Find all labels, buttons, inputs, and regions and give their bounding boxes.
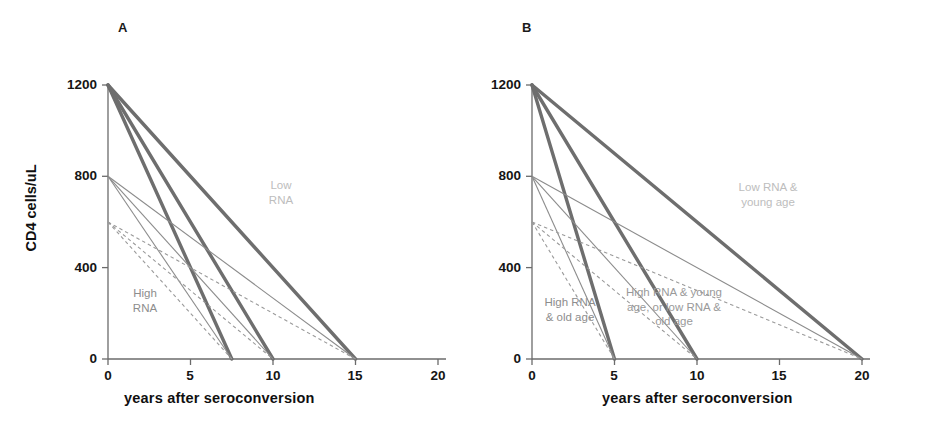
panel-a-ytick-1200: 1200	[52, 77, 97, 92]
panel-a-xtick-15: 15	[340, 368, 370, 383]
panel-a-xtick-20: 20	[423, 368, 453, 383]
panel-b-ytick-1200: 1200	[476, 77, 521, 92]
panel-b: B	[474, 0, 948, 432]
panel-a-annotation-high-rna: High RNA	[112, 286, 178, 315]
panel-b-ytick-800: 800	[476, 168, 521, 183]
panel-a: A	[0, 0, 474, 432]
panel-a-xtick-5: 5	[175, 368, 205, 383]
panel-b-xtick-5: 5	[599, 368, 629, 383]
panel-b-xtick-20: 20	[847, 368, 877, 383]
panel-a-annotation-low-rna: Low RNA	[248, 178, 314, 207]
panel-b-xtick-15: 15	[764, 368, 794, 383]
panel-b-annotation-high-rna-young-or-low-rna-old: High RNA & young age, or low RNA & old a…	[610, 285, 738, 329]
panel-b-xtick-10: 10	[682, 368, 712, 383]
panel-a-y-axis-title: CD4 cells/uL	[23, 133, 39, 283]
panel-a-xtick-0: 0	[93, 368, 123, 383]
panel-a-plot	[0, 0, 474, 432]
panel-a-thin-lines	[108, 176, 356, 359]
panel-a-ytick-800: 800	[52, 168, 97, 183]
panel-a-axis-lines	[108, 85, 446, 359]
panel-a-thick-lines	[108, 85, 356, 359]
panel-a-ytick-400: 400	[52, 260, 97, 275]
panel-a-xtick-10: 10	[258, 368, 288, 383]
panel-b-annotation-high-rna-old-age: High RNA & old age	[524, 295, 616, 324]
panel-b-xtick-0: 0	[517, 368, 547, 383]
panel-b-x-axis-title: years after seroconversion	[602, 390, 793, 406]
panel-b-ytick-0: 0	[476, 351, 521, 366]
panel-a-x-axis-title: years after seroconversion	[124, 390, 315, 406]
panel-b-ytick-400: 400	[476, 260, 521, 275]
panel-a-y-ticks	[102, 85, 108, 359]
panel-a-ytick-0: 0	[52, 351, 97, 366]
panel-b-annotation-low-rna-young-age: Low RNA & young age	[712, 180, 824, 209]
figure-cd4-decline: A	[0, 0, 948, 432]
